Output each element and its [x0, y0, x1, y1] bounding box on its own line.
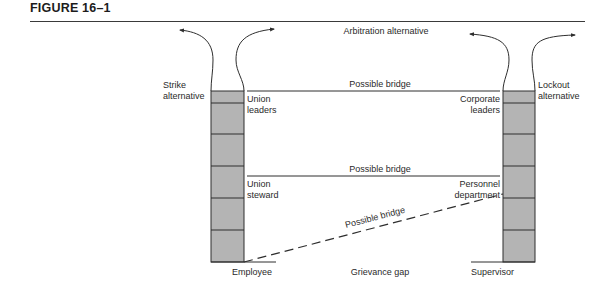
- management-arbitration-arrow: [470, 34, 509, 91]
- union-column: [211, 91, 244, 262]
- arbitration-label: Arbitration alternative: [316, 26, 456, 37]
- lockout-label: Lockout alternative: [538, 80, 580, 101]
- personnel-line2: department: [430, 190, 500, 201]
- employee-label: Employee: [232, 267, 272, 278]
- lockout-label-line2: alternative: [538, 91, 580, 102]
- union-steward-line1: Union: [247, 179, 279, 190]
- bridge-middle-label: Possible bridge: [320, 164, 440, 175]
- corporate-leaders-label: Corporate leaders: [440, 94, 500, 115]
- union-leaders-label: Union leaders: [247, 94, 277, 115]
- grievance-diagram: Possible bridge: [0, 0, 614, 288]
- corporate-leaders-line2: leaders: [440, 105, 500, 116]
- management-column: [503, 91, 535, 262]
- lockout-label-line1: Lockout: [538, 80, 580, 91]
- personnel-line1: Personnel: [430, 179, 500, 190]
- union-leaders-line1: Union: [247, 94, 277, 105]
- strike-label: Strike alternative: [163, 80, 205, 101]
- strike-label-line1: Strike: [163, 80, 205, 91]
- grievance-gap-label: Grievance gap: [320, 267, 440, 278]
- corporate-leaders-line1: Corporate: [440, 94, 500, 105]
- union-steward-line2: steward: [247, 190, 279, 201]
- strike-label-line2: alternative: [163, 91, 205, 102]
- union-arbitration-arrow: [236, 29, 274, 91]
- union-leaders-line2: leaders: [247, 105, 277, 116]
- bridge-diagonal-line: [244, 194, 503, 262]
- union-steward-label: Union steward: [247, 179, 279, 200]
- bridge-diagonal-label: Possible bridge: [344, 205, 406, 230]
- personnel-department-label: Personnel department: [430, 179, 500, 200]
- bridge-top-label: Possible bridge: [320, 79, 440, 90]
- supervisor-label: Supervisor: [471, 267, 514, 278]
